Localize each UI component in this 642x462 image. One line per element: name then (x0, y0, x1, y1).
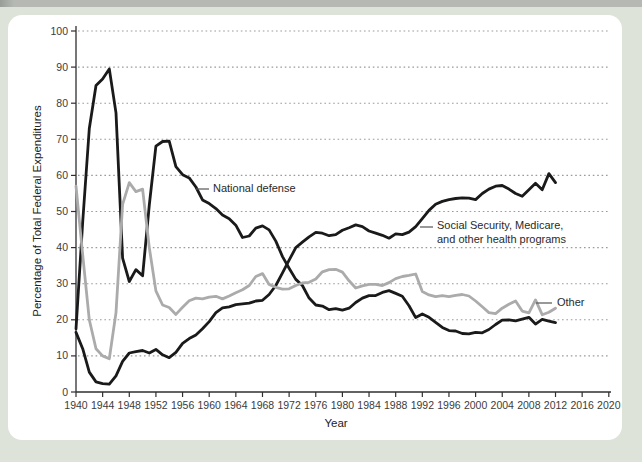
x-tick-label-2008: 2008 (517, 399, 541, 411)
y-tick-label-80: 80 (56, 97, 68, 109)
y-tick-label-50: 50 (56, 205, 68, 217)
series-line-national-defense (76, 69, 556, 334)
page-background: 0102030405060708090100194019441948195219… (0, 0, 642, 462)
y-tick-label-10: 10 (56, 349, 68, 361)
y-tick-label-40: 40 (56, 241, 68, 253)
x-tick-label-1996: 1996 (437, 399, 461, 411)
x-tick-label-1992: 1992 (411, 399, 435, 411)
x-tick-label-1972: 1972 (277, 399, 301, 411)
x-tick-label-1940: 1940 (64, 399, 88, 411)
x-tick-label-1960: 1960 (198, 399, 222, 411)
x-tick-label-1948: 1948 (118, 399, 142, 411)
x-tick-label-1956: 1956 (171, 399, 195, 411)
y-tick-label-90: 90 (56, 61, 68, 73)
x-tick-label-1968: 1968 (251, 399, 275, 411)
y-tick-label-0: 0 (62, 386, 68, 398)
y-tick-label-20: 20 (56, 313, 68, 325)
x-tick-label-1944: 1944 (91, 399, 115, 411)
x-axis-title: Year (324, 417, 347, 429)
x-tick-label-2020: 2020 (597, 399, 621, 411)
x-tick-label-1976: 1976 (304, 399, 328, 411)
x-tick-label-2012: 2012 (544, 399, 568, 411)
x-tick-label-2000: 2000 (464, 399, 488, 411)
y-tick-label-70: 70 (56, 133, 68, 145)
y-tick-label-60: 60 (56, 169, 68, 181)
axes: 0102030405060708090100194019441948195219… (50, 25, 620, 412)
annotation-social-security-line2: and other health programs (437, 233, 566, 247)
annotation-national-defense: National defense (213, 182, 296, 196)
annotation-other: Other (557, 296, 585, 310)
annotation-social-security: Social Security, Medicare, and other hea… (437, 219, 566, 246)
x-tick-label-1984: 1984 (357, 399, 381, 411)
y-axis-title: Percentage of Total Federal Expenditures (31, 105, 43, 316)
x-tick-label-1980: 1980 (331, 399, 355, 411)
x-tick-label-1952: 1952 (144, 399, 168, 411)
y-tick-label-30: 30 (56, 277, 68, 289)
y-tick-label-100: 100 (50, 25, 68, 37)
annotation-social-security-line1: Social Security, Medicare, (437, 219, 566, 233)
gridlines (78, 31, 610, 356)
x-tick-label-1964: 1964 (224, 399, 248, 411)
x-tick-label-1988: 1988 (384, 399, 408, 411)
x-tick-label-2004: 2004 (491, 399, 515, 411)
x-tick-label-2016: 2016 (570, 399, 594, 411)
